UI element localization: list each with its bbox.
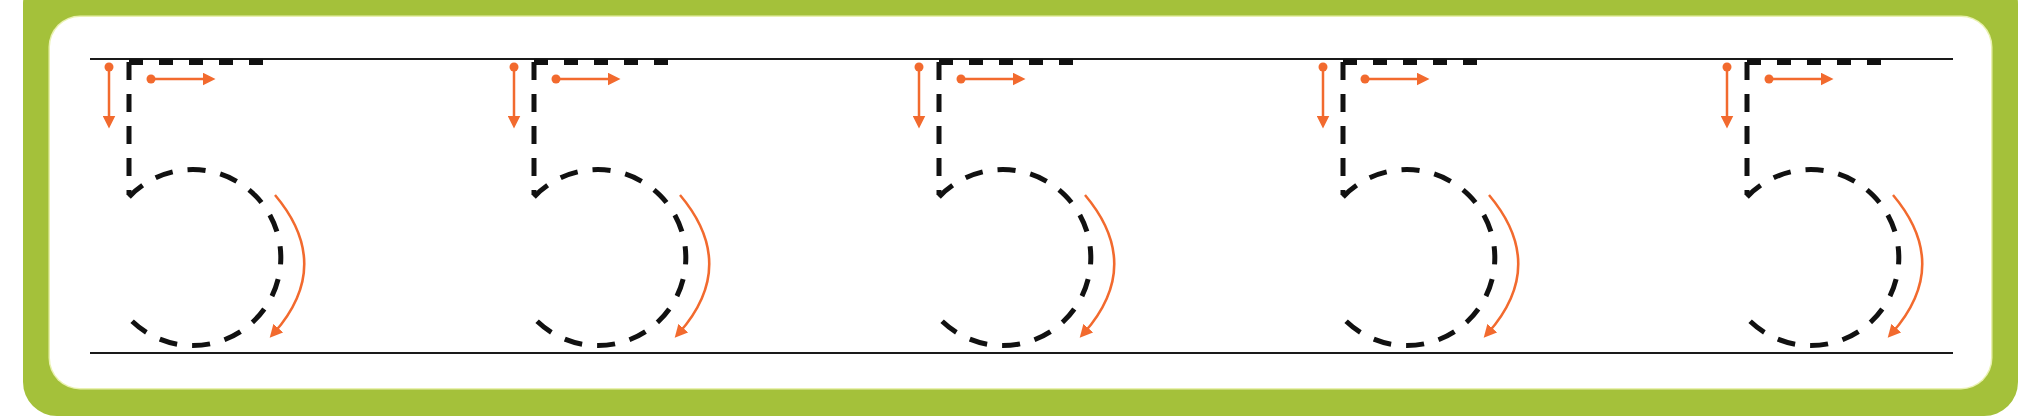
arrow-right-icon bbox=[1765, 75, 1828, 84]
arrow-down-icon bbox=[1723, 63, 1732, 123]
dashed-bowl-arc bbox=[532, 170, 686, 346]
tracing-sheet bbox=[0, 0, 2040, 416]
dashed-bowl-arc bbox=[1745, 170, 1899, 346]
traceable-digit-5[interactable] bbox=[105, 62, 305, 346]
arrow-right-icon bbox=[1361, 75, 1424, 84]
arrow-right-icon bbox=[957, 75, 1020, 84]
traceable-digit-5[interactable] bbox=[1723, 62, 1923, 346]
arrow-down-icon bbox=[1319, 63, 1328, 123]
traceable-digit-5[interactable] bbox=[915, 62, 1115, 346]
digit-group bbox=[105, 62, 1923, 346]
dashed-bowl-arc bbox=[1341, 170, 1495, 346]
traceable-digit-5[interactable] bbox=[1319, 62, 1519, 346]
arrow-down-icon bbox=[105, 63, 114, 123]
arrow-right-icon bbox=[147, 75, 210, 84]
arrow-down-icon bbox=[915, 63, 924, 123]
arrow-right-icon bbox=[552, 75, 615, 84]
arrow-down-icon bbox=[510, 63, 519, 123]
dashed-bowl-arc bbox=[937, 170, 1091, 346]
dashed-bowl-arc bbox=[127, 170, 281, 346]
traceable-digit-5[interactable] bbox=[510, 62, 710, 346]
